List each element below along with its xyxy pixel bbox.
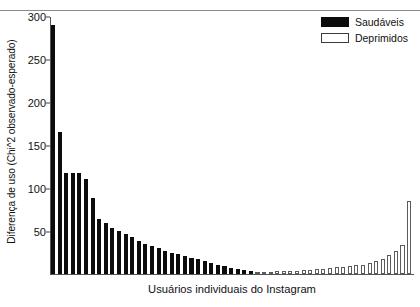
bar-deprimidos [381, 259, 385, 274]
bar-deprimidos [400, 245, 404, 274]
bar-saudaveis [176, 254, 180, 274]
bar-saudaveis [104, 223, 108, 274]
legend-item-saudaveis: Saudáveis [321, 16, 408, 28]
bar-deprimidos [302, 270, 306, 274]
bar-saudaveis [183, 256, 187, 274]
bar-deprimidos [374, 261, 378, 274]
bar-saudaveis [51, 25, 55, 274]
bar-saudaveis [209, 263, 213, 274]
bar-deprimidos [407, 201, 411, 274]
bar-deprimidos [361, 265, 365, 274]
bar-saudaveis [229, 268, 233, 274]
bar-deprimidos [275, 271, 279, 274]
bar-deprimidos [269, 272, 273, 274]
bar-saudaveis [64, 173, 68, 274]
filled-black-swatch-icon [321, 17, 349, 27]
bar-deprimidos [328, 268, 332, 274]
bar-deprimidos [282, 271, 286, 274]
bar-chart: 30025020015010050 Diferença de uso (Chi^… [0, 0, 420, 307]
bar-saudaveis [137, 241, 141, 274]
outlined-white-swatch-icon [321, 33, 349, 43]
bar-saudaveis [163, 251, 167, 274]
bar-deprimidos [315, 269, 319, 274]
bar-deprimidos [341, 267, 345, 274]
legend-label-deprimidos: Deprimidos [355, 32, 408, 44]
bar-saudaveis [117, 231, 121, 274]
bar-deprimidos [321, 269, 325, 274]
bar-saudaveis [71, 173, 75, 274]
bar-saudaveis [170, 253, 174, 275]
legend-label-saudaveis: Saudáveis [355, 16, 404, 28]
bar-saudaveis [249, 271, 253, 274]
bar-deprimidos [394, 251, 398, 274]
bar-deprimidos [288, 271, 292, 274]
bar-saudaveis [203, 261, 207, 274]
bar-saudaveis [143, 244, 147, 274]
bar-deprimidos [348, 266, 352, 274]
bar-saudaveis [242, 270, 246, 274]
bar-saudaveis [124, 234, 128, 274]
bar-deprimidos [368, 263, 372, 274]
bar-saudaveis [110, 228, 114, 274]
bar-deprimidos [262, 272, 266, 274]
plot-area [50, 17, 414, 275]
bar-saudaveis [196, 259, 200, 274]
bar-saudaveis [222, 266, 226, 274]
legend-item-deprimidos: Deprimidos [321, 32, 408, 44]
y-axis-title: Diferença de uso (Chi^2 observado-espera… [6, 17, 17, 267]
bar-deprimidos [387, 255, 391, 274]
bar-saudaveis [216, 265, 220, 274]
bar-deprimidos [255, 272, 259, 274]
bar-saudaveis [77, 173, 81, 274]
bar-deprimidos [295, 271, 299, 274]
bar-deprimidos [308, 270, 312, 274]
bar-saudaveis [130, 237, 134, 274]
chart-legend: Saudáveis Deprimidos [321, 16, 408, 44]
bar-deprimidos [354, 265, 358, 274]
bar-saudaveis [58, 132, 62, 274]
bar-saudaveis [157, 248, 161, 274]
bar-saudaveis [236, 269, 240, 274]
bar-saudaveis [84, 179, 88, 274]
bar-series-group [51, 17, 414, 274]
bar-saudaveis [97, 219, 101, 274]
bar-saudaveis [189, 258, 193, 274]
bar-saudaveis [150, 246, 154, 274]
top-divider-rule [0, 10, 420, 11]
bar-saudaveis [91, 198, 95, 274]
x-axis-title: Usuários individuais do Instagram [50, 283, 414, 295]
bar-deprimidos [335, 267, 339, 274]
